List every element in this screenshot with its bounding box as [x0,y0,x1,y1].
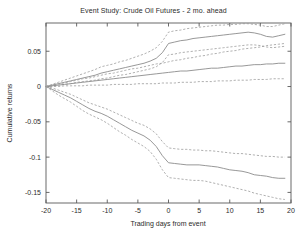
series-line [46,32,285,86]
x-tick-label: -15 [72,207,82,214]
x-tick-label: -5 [135,207,141,214]
series-line [46,87,285,200]
series-line [46,63,285,86]
y-tick-label: 0 [37,83,41,90]
x-tick-label: 15 [256,207,264,214]
event-study-line-chart: -20-15-10-505101520 0.050-0.05-0.1-0.15 … [0,0,307,231]
data-series-group [46,24,285,200]
chart-figure: Event Study: Crude Oil Futures - 2 mo. a… [0,0,307,231]
y-tick-label: -0.1 [29,154,41,161]
series-line [46,87,285,179]
x-tick-label: -20 [41,207,51,214]
y-tick-label: 0.05 [27,48,41,55]
y-tick-label: -0.15 [25,189,41,196]
y-tick-label: -0.05 [25,118,41,125]
series-line [46,45,285,87]
x-tick-label: 0 [167,207,171,214]
x-axis-ticks: -20-15-10-505101520 [41,23,295,214]
y-axis-title: Cumulative returns [6,83,13,142]
series-line [46,24,285,87]
x-tick-label: 5 [197,207,201,214]
series-line [46,87,285,158]
x-tick-label: 10 [226,207,234,214]
x-tick-label: 20 [287,207,295,214]
x-tick-label: -10 [102,207,112,214]
x-axis-title: Trading days from event [130,220,205,228]
plot-axes [46,23,291,203]
